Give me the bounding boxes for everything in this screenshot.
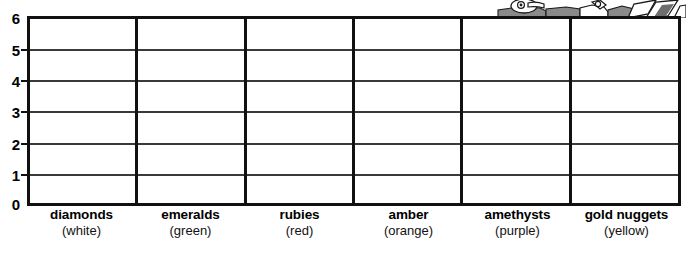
x-category-color-amethysts: (purple) [463,224,572,238]
y-tick-mark-5 [21,49,27,51]
x-category-amber: amber (orange) [354,208,463,256]
bar-slot-rubies[interactable] [247,19,355,203]
bar-slot-amber[interactable] [355,19,463,203]
x-category-name-gold-nuggets: gold nuggets [572,208,681,222]
x-category-color-diamonds: (white) [27,224,136,238]
x-axis-labels: diamonds (white) emeralds (green) rubies… [27,208,681,256]
y-tick-mark-1 [21,174,27,176]
bar-slot-emeralds[interactable] [138,19,246,203]
x-category-gold-nuggets: gold nuggets (yellow) [572,208,681,256]
bar-slot-diamonds[interactable] [30,19,138,203]
y-tick-label-4: 4 [0,73,20,88]
bar-graph-worksheet: 6 5 4 3 2 1 0 diamonds (white) [0,0,688,265]
bar-slot-gold-nuggets[interactable] [572,19,680,203]
y-tick-label-0: 0 [0,197,20,212]
y-tick-label-3: 3 [0,105,20,120]
x-category-color-amber: (orange) [354,224,463,238]
x-category-name-diamonds: diamonds [27,208,136,222]
bar-slot-amethysts[interactable] [463,19,571,203]
x-category-emeralds: emeralds (green) [136,208,245,256]
x-category-color-rubies: (red) [245,224,354,238]
x-category-amethysts: amethysts (purple) [463,208,572,256]
y-tick-mark-4 [21,80,27,82]
y-axis-labels: 6 5 4 3 2 1 0 [0,16,20,206]
x-category-name-emeralds: emeralds [136,208,245,222]
x-category-color-emeralds: (green) [136,224,245,238]
y-tick-label-6: 6 [0,11,20,26]
y-tick-label-2: 2 [0,136,20,151]
y-tick-mark-3 [21,111,27,113]
x-category-name-rubies: rubies [245,208,354,222]
x-category-diamonds: diamonds (white) [27,208,136,256]
x-category-name-amber: amber [354,208,463,222]
x-category-rubies: rubies (red) [245,208,354,256]
y-tick-mark-2 [21,143,27,145]
y-tick-label-5: 5 [0,42,20,57]
y-tick-label-1: 1 [0,167,20,182]
x-category-color-gold-nuggets: (yellow) [572,224,681,238]
x-category-name-amethysts: amethysts [463,208,572,222]
plot-area [27,16,681,206]
